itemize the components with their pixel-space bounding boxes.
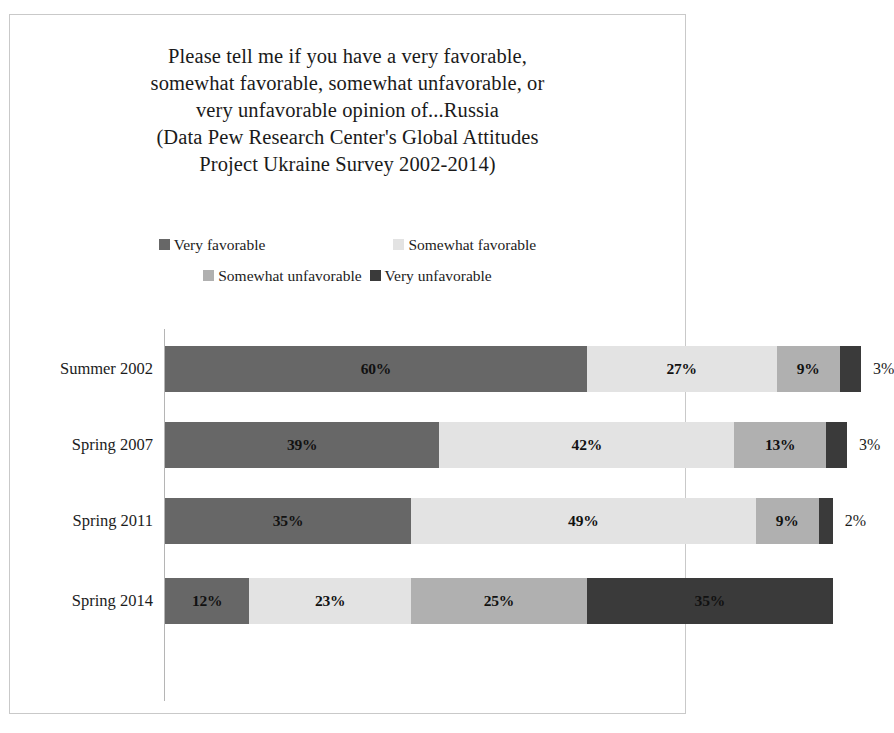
bar-row: Summer 200260%27%9%3% (10, 331, 685, 406)
category-label: Summer 2002 (10, 359, 153, 379)
bar-segment[interactable]: 13% (734, 422, 825, 468)
bar-segment-value-label: 60% (361, 360, 391, 378)
bar-segment-value-label: 25% (484, 592, 514, 610)
bar-segment[interactable]: 39% (165, 422, 439, 468)
legend-item-somewhat-favorable[interactable]: Somewhat favorable (393, 236, 536, 254)
bar-segment[interactable]: 35% (587, 578, 833, 624)
legend-label-somewhat-favorable: Somewhat favorable (408, 236, 536, 254)
bar-row: Spring 201412%23%25%35% (10, 563, 685, 638)
bar-segment[interactable]: 25% (411, 578, 587, 624)
bar-segment-value-label: 23% (315, 592, 345, 610)
legend-item-somewhat-unfavorable[interactable]: Somewhat unfavorable (203, 267, 361, 285)
bar-segment[interactable]: 49% (411, 498, 755, 544)
bar-segment[interactable] (840, 346, 861, 392)
chart-title-line-3: very unfavorable opinion of...Russia (10, 97, 685, 124)
bar-segment[interactable]: 27% (587, 346, 777, 392)
bar-segment[interactable]: 9% (777, 346, 840, 392)
legend-swatch-icon-somewhat-favorable (393, 239, 404, 250)
bar-segment-value-label: 39% (287, 436, 317, 454)
chart-title-line-4: (Data Pew Research Center's Global Attit… (10, 124, 685, 151)
legend-label-very-unfavorable: Very unfavorable (385, 267, 492, 285)
stacked-bar: 60%27%9% (165, 346, 861, 392)
bar-segment-value-label: 9% (776, 512, 799, 530)
stacked-bar: 39%42%13% (165, 422, 847, 468)
plot-area: Summer 200260%27%9%3%Spring 200739%42%13… (10, 315, 685, 715)
bar-segment-value-label: 9% (797, 360, 820, 378)
legend-swatch-icon-very-favorable (159, 239, 170, 250)
bar-segment-value-label: 49% (568, 512, 598, 530)
chart-title-line-5: Project Ukraine Survey 2002-2014) (10, 151, 685, 178)
category-label: Spring 2007 (10, 435, 153, 455)
bar-segment[interactable]: 60% (165, 346, 587, 392)
stacked-bar: 35%49%9% (165, 498, 833, 544)
chart-legend: Very favorable Somewhat favorable Somewh… (10, 229, 685, 291)
bar-segment-value-label: 35% (273, 512, 303, 530)
bar-segment-outside-value-label: 3% (859, 436, 880, 454)
bar-segment-value-label: 42% (572, 436, 602, 454)
category-label: Spring 2011 (10, 511, 153, 531)
chart-frame: Please tell me if you have a very favora… (9, 14, 686, 714)
legend-label-very-favorable: Very favorable (174, 236, 266, 254)
bar-row: Spring 200739%42%13%3% (10, 407, 685, 482)
stacked-bar: 12%23%25%35% (165, 578, 833, 624)
chart-title: Please tell me if you have a very favora… (10, 43, 685, 178)
bar-segment-outside-value-label: 3% (873, 360, 894, 378)
bar-segment-value-label: 12% (192, 592, 222, 610)
bar-segment-outside-value-label: 2% (845, 512, 866, 530)
bar-segment[interactable] (826, 422, 847, 468)
legend-item-very-favorable[interactable]: Very favorable (159, 236, 266, 254)
legend-label-somewhat-unfavorable: Somewhat unfavorable (218, 267, 361, 285)
bar-segment[interactable]: 12% (165, 578, 249, 624)
category-label: Spring 2014 (10, 591, 153, 611)
legend-item-very-unfavorable[interactable]: Very unfavorable (370, 267, 492, 285)
bar-row: Spring 201135%49%9%2% (10, 483, 685, 558)
chart-title-line-2: somewhat favorable, somewhat unfavorable… (10, 70, 685, 97)
bar-segment-value-label: 13% (765, 436, 795, 454)
bar-segment[interactable]: 35% (165, 498, 411, 544)
legend-row-top: Very favorable Somewhat favorable (10, 229, 685, 260)
legend-row-bottom: Somewhat unfavorable Very unfavorable (10, 260, 685, 291)
bar-segment[interactable] (819, 498, 833, 544)
bar-segment[interactable]: 42% (439, 422, 734, 468)
legend-swatch-icon-very-unfavorable (370, 270, 381, 281)
bar-segment[interactable]: 9% (756, 498, 819, 544)
bar-segment-value-label: 35% (695, 592, 725, 610)
legend-swatch-icon-somewhat-unfavorable (203, 270, 214, 281)
chart-title-line-1: Please tell me if you have a very favora… (10, 43, 685, 70)
bar-segment-value-label: 27% (666, 360, 696, 378)
bar-segment[interactable]: 23% (249, 578, 411, 624)
